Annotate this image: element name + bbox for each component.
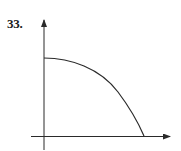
graph-figure [0,0,181,151]
curve [44,58,144,136]
